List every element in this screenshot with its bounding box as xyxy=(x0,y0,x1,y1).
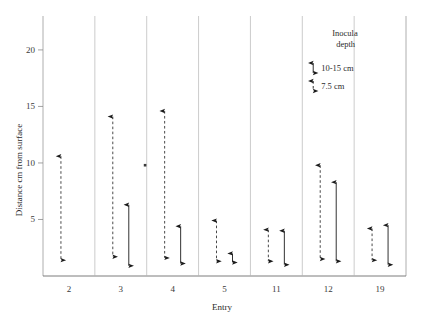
legend-entry-label: 10-15 cm xyxy=(321,63,354,73)
y-axis: 5101520 xyxy=(26,45,43,225)
x-tick-label: 19 xyxy=(376,284,386,294)
plot-frame xyxy=(43,16,406,276)
x-tick-label: 4 xyxy=(170,284,175,294)
legend-title-line1: Inocula xyxy=(332,28,358,38)
y-axis-title: Distance cm from surface xyxy=(14,124,24,217)
y-tick-label: 20 xyxy=(26,45,36,55)
y-tick-label: 15 xyxy=(26,101,36,111)
x-axis: 2345111219 xyxy=(67,284,385,294)
y-tick-label: 5 xyxy=(31,214,36,224)
distance-from-surface-chart: 5101520 2345111219 Inoculadepth10-15 cm7… xyxy=(0,0,426,325)
x-tick-label: 12 xyxy=(324,284,333,294)
legend-entry-label: 7.5 cm xyxy=(321,81,345,91)
x-tick-label: 2 xyxy=(67,284,72,294)
chart-container: 5101520 2345111219 Inoculadepth10-15 cm7… xyxy=(0,0,426,325)
chart-legend: Inoculadepth10-15 cm7.5 cm xyxy=(313,28,358,91)
series-layer xyxy=(61,111,388,266)
legend-title-line2: depth xyxy=(336,39,356,49)
annotation-layer xyxy=(144,164,147,167)
x-tick-label: 11 xyxy=(272,284,281,294)
y-tick-label: 10 xyxy=(26,158,36,168)
x-tick-label: 3 xyxy=(119,284,124,294)
x-tick-label: 5 xyxy=(222,284,227,294)
x-axis-title: Entry xyxy=(212,302,232,312)
outlier-dot xyxy=(144,164,147,167)
